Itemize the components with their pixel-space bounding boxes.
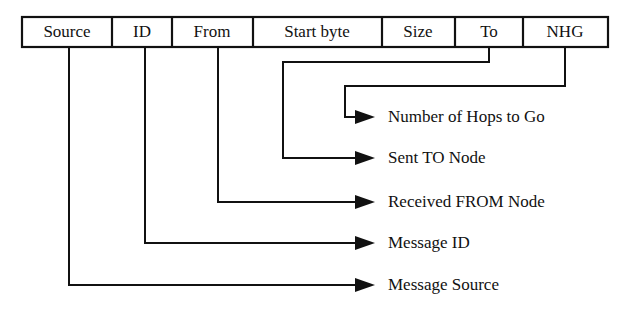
field-cell-start-byte: Start byte xyxy=(284,22,350,41)
callout-source-arrowhead xyxy=(355,278,375,292)
message-header-table: Source ID From Start byte Size To NHG xyxy=(22,17,608,47)
callout-from-leader xyxy=(218,47,357,202)
callout-id-leader xyxy=(145,47,357,243)
field-cell-to: To xyxy=(480,22,498,41)
field-cell-source: Source xyxy=(43,22,90,41)
field-cell-id: ID xyxy=(133,22,151,41)
callout-source-label: Message Source xyxy=(388,275,499,294)
callout-nhg-arrowhead xyxy=(355,110,375,124)
field-cell-size: Size xyxy=(403,22,432,41)
callout-id-arrowhead xyxy=(355,236,375,250)
header-callout-diagram: Source ID From Start byte Size To NHG Nu… xyxy=(0,0,639,315)
callout-from-label: Received FROM Node xyxy=(388,192,545,211)
callout-id-label: Message ID xyxy=(388,233,470,252)
callout-to-label: Sent TO Node xyxy=(388,148,486,167)
callout-from: Received FROM Node xyxy=(218,47,545,211)
callout-nhg: Number of Hops to Go xyxy=(345,47,565,126)
field-cell-nhg: NHG xyxy=(547,22,584,41)
callout-to-arrowhead xyxy=(355,151,375,165)
callout-to-leader xyxy=(283,47,489,158)
callout-from-arrowhead xyxy=(355,195,375,209)
field-cell-from: From xyxy=(194,22,231,41)
callout-nhg-label: Number of Hops to Go xyxy=(388,107,545,126)
callout-source-leader xyxy=(69,47,357,285)
diagram-page: Source ID From Start byte Size To NHG Nu… xyxy=(0,0,639,315)
